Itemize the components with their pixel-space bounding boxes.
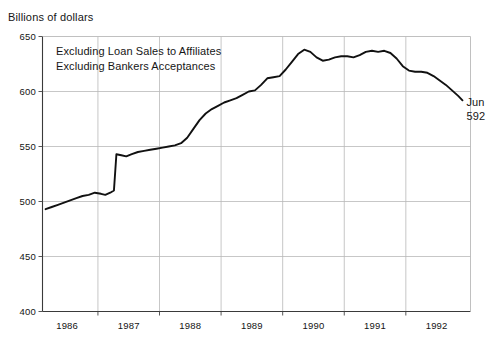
x-tick-label: 1988 xyxy=(170,320,210,331)
x-tick-label: 1991 xyxy=(355,320,395,331)
x-tick-label: 1987 xyxy=(109,320,149,331)
x-tick-label: 1992 xyxy=(417,320,457,331)
vertical-gridlines xyxy=(98,37,406,312)
horizontal-gridlines xyxy=(43,92,471,257)
y-tick-label: 650 xyxy=(2,31,36,42)
endpoint-month-label: Jun xyxy=(466,95,485,109)
y-axis-tick-marks xyxy=(39,37,43,312)
x-tick-label: 1990 xyxy=(293,320,333,331)
y-tick-label: 450 xyxy=(2,251,36,262)
y-tick-label: 550 xyxy=(2,141,36,152)
x-tick-label: 1989 xyxy=(232,320,272,331)
y-tick-label: 500 xyxy=(2,196,36,207)
chart-root: Billions of dollars 400450500550600650 1… xyxy=(0,0,486,349)
endpoint-annotation: Jun 592 xyxy=(466,95,485,123)
y-tick-label: 600 xyxy=(2,86,36,97)
chart-note-line-1: Excluding Loan Sales to Affiliates xyxy=(56,44,221,59)
x-tick-label: 1986 xyxy=(47,320,87,331)
chart-note: Excluding Loan Sales to Affiliates Exclu… xyxy=(56,44,221,73)
endpoint-value-label: 592 xyxy=(466,109,485,123)
plot-frame xyxy=(43,37,471,312)
data-series-line xyxy=(46,50,463,210)
x-axis-tick-marks xyxy=(98,312,406,316)
y-tick-label: 400 xyxy=(2,306,36,317)
chart-note-line-2: Excluding Bankers Acceptances xyxy=(56,59,221,74)
